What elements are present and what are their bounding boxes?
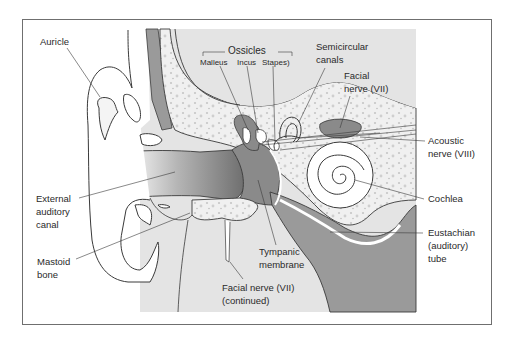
label-mastoid-1: Mastoid: [37, 256, 70, 269]
label-eustachian-3: tube: [428, 253, 447, 266]
label-acoustic-nerve-1: Acoustic: [428, 135, 464, 148]
label-external-canal-3: canal: [36, 219, 59, 232]
label-tympanic-1: Tympanic: [259, 246, 300, 259]
label-auricle: Auricle: [40, 36, 69, 49]
label-malleus: Malleus: [200, 58, 228, 68]
label-cochlea: Cochlea: [428, 193, 463, 206]
label-external-canal-1: External: [36, 193, 71, 206]
mastoid-bone-shape: [192, 198, 258, 220]
label-eustachian-1: Eustachian: [428, 227, 475, 240]
label-ossicles: Ossicles: [228, 45, 266, 58]
label-acoustic-nerve-2: nerve (VIII): [428, 148, 475, 161]
label-semicircular-canals-1: Semicircular: [316, 41, 368, 54]
label-incus: Incus: [237, 58, 256, 68]
label-facial-nerve-2: nerve (VII): [344, 83, 388, 96]
label-mastoid-2: bone: [37, 269, 58, 282]
label-eustachian-2: (auditory): [428, 240, 468, 253]
label-external-canal-2: auditory: [36, 206, 70, 219]
label-facial-nerve-1: Facial: [344, 70, 369, 83]
label-tympanic-2: membrane: [259, 259, 304, 272]
label-semicircular-canals-2: canals: [316, 54, 343, 67]
label-stapes: Stapes): [262, 58, 290, 68]
cochlea-shape: [307, 142, 373, 208]
label-facial-nerve-continued-2: (continued): [222, 295, 270, 308]
label-facial-nerve-continued-1: Facial nerve (VII): [222, 282, 294, 295]
